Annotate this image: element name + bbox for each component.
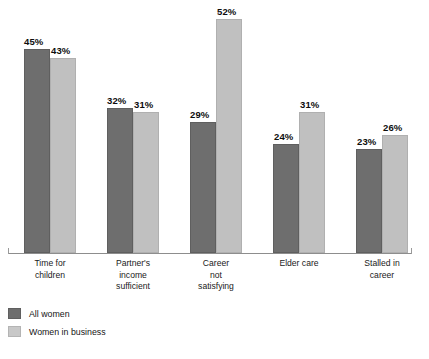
- x-axis-right-tick: [411, 248, 412, 254]
- bar-all-women[interactable]: [273, 144, 299, 253]
- x-axis-category-labels: Time for children Partner's income suffi…: [0, 258, 429, 302]
- bar-value-women-in-business: 31%: [134, 99, 153, 110]
- legend: All women Women in business: [8, 306, 208, 342]
- category-label-stalled-in-career: Stalled in career: [342, 258, 422, 281]
- legend-item-label: Women in business: [29, 327, 106, 337]
- bar-women-in-business[interactable]: [133, 112, 159, 253]
- legend-item-all-women[interactable]: All women: [8, 306, 208, 321]
- bar-all-women[interactable]: [356, 149, 382, 253]
- x-axis-line: [8, 253, 412, 254]
- bar-value-women-in-business: 31%: [300, 99, 319, 110]
- category-label-elder-care: Elder care: [259, 258, 339, 270]
- category-label-time-for-children: Time for children: [10, 258, 90, 281]
- legend-swatch-icon: [8, 308, 21, 319]
- bar-value-all-women: 24%: [274, 131, 293, 142]
- bar-value-all-women: 29%: [190, 109, 209, 120]
- x-axis-left-tick: [8, 248, 9, 254]
- bar-women-in-business[interactable]: [382, 135, 408, 253]
- category-label-line: Time for: [10, 258, 90, 270]
- bar-value-all-women: 32%: [107, 95, 126, 106]
- bar-group-elder-care: 24% 31%: [273, 0, 325, 253]
- bar-value-all-women: 23%: [357, 136, 376, 147]
- legend-swatch-icon: [8, 326, 21, 337]
- bar-women-in-business[interactable]: [299, 112, 325, 253]
- legend-item-label: All women: [29, 309, 70, 319]
- bar-value-women-in-business: 52%: [217, 6, 236, 17]
- plot-area: 45% 43% 32% 31% 29% 52% 24% 31%: [0, 0, 429, 254]
- bar-group-partners-income-sufficient: 32% 31%: [107, 0, 159, 253]
- category-label-career-not-satisfying: Career not satisfying: [176, 258, 256, 293]
- category-label-line: children: [10, 270, 90, 282]
- category-label-line: career: [342, 270, 422, 282]
- category-label-line: sufficient: [93, 281, 173, 293]
- category-label-line: not: [176, 270, 256, 282]
- bar-group-time-for-children: 45% 43%: [24, 0, 76, 253]
- bar-women-in-business[interactable]: [216, 19, 242, 253]
- category-label-line: Elder care: [259, 258, 339, 270]
- category-label-partners-income-sufficient: Partner's income sufficient: [93, 258, 173, 293]
- bar-all-women[interactable]: [107, 108, 133, 253]
- legend-item-women-in-business[interactable]: Women in business: [8, 324, 208, 339]
- bar-value-women-in-business: 26%: [383, 122, 402, 133]
- bar-group-career-not-satisfying: 29% 52%: [190, 0, 242, 253]
- bar-chart: 45% 43% 32% 31% 29% 52% 24% 31%: [0, 0, 429, 359]
- category-label-line: satisfying: [176, 281, 256, 293]
- category-label-line: Stalled in: [342, 258, 422, 270]
- bar-value-all-women: 45%: [24, 36, 43, 47]
- category-label-line: income: [93, 270, 173, 282]
- bar-value-women-in-business: 43%: [51, 45, 70, 56]
- bar-women-in-business[interactable]: [50, 58, 76, 253]
- bar-all-women[interactable]: [24, 49, 50, 253]
- category-label-line: Career: [176, 258, 256, 270]
- bar-group-stalled-in-career: 23% 26%: [356, 0, 408, 253]
- category-label-line: Partner's: [93, 258, 173, 270]
- bar-all-women[interactable]: [190, 122, 216, 253]
- footnote-cropped: [6, 350, 186, 357]
